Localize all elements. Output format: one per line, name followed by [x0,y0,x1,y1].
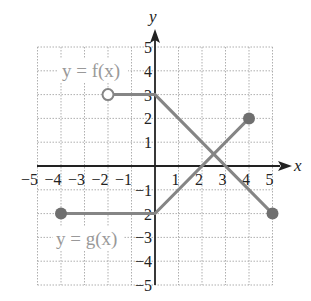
x-tick-label: −4 [44,171,61,188]
f-line [108,95,273,214]
x-tick-label: −3 [68,171,85,188]
y-tick-label: −5 [135,277,152,294]
series [55,89,279,220]
y-tick-label: 2 [144,110,152,127]
closed-endpoint-icon [55,208,67,220]
x-tick-label: −5 [21,171,38,188]
x-axis-arrow-icon [278,161,292,171]
function-graph: x y −5−4−3−2−11234554321−1−2−3−4−5 y = f… [0,0,311,301]
x-tick-label: −2 [91,171,108,188]
y-tick-label: −1 [135,182,152,199]
y-tick-label: −3 [135,229,152,246]
closed-endpoint-icon [267,208,279,220]
x-tick-label: 1 [172,171,180,188]
y-tick-label: 4 [144,63,152,80]
x-axis-label: x [293,156,302,175]
closed-endpoint-icon [243,112,255,124]
y-tick-label: −4 [135,253,152,270]
f-label: y = f(x) [62,60,120,82]
y-axis-label: y [147,7,157,26]
open-endpoint-icon [103,89,114,100]
x-tick-label: −1 [115,171,132,188]
x-tick-label: 3 [219,171,227,188]
function-labels: y = f(x) y = g(x) [53,58,128,251]
y-tick-label: 1 [144,134,152,151]
x-tick-label: 5 [266,171,274,188]
g-label: y = g(x) [56,228,117,250]
y-tick-label: 5 [144,39,152,56]
